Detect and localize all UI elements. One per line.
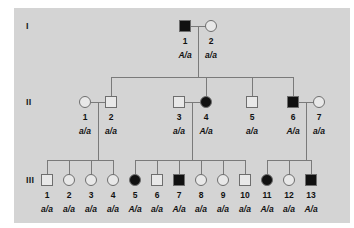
individual-III-11-circle[interactable] bbox=[262, 175, 273, 186]
individual-III-1-genotype-label: a/a bbox=[41, 204, 53, 214]
individual-III-3-circle[interactable] bbox=[86, 175, 97, 186]
individual-III-10-square[interactable] bbox=[240, 175, 251, 186]
individual-III-1-id-label: 1 bbox=[45, 190, 50, 200]
individual-III-11-genotype-label: A/a bbox=[260, 204, 273, 214]
individual-II-5-id-label: 5 bbox=[250, 112, 255, 122]
individual-III-12-id-label: 12 bbox=[284, 190, 293, 200]
individual-III-6-id-label: 6 bbox=[155, 190, 160, 200]
individual-III-9-circle[interactable] bbox=[218, 175, 229, 186]
individual-I-1-square[interactable] bbox=[180, 21, 191, 32]
individual-I-1-genotype-label: A/a bbox=[178, 50, 191, 60]
individual-III-6-square[interactable] bbox=[152, 175, 163, 186]
individual-III-2-circle[interactable] bbox=[64, 175, 75, 186]
individual-III-8-genotype-label: a/a bbox=[195, 204, 207, 214]
individual-III-10-id-label: 10 bbox=[240, 190, 249, 200]
individual-II-6-genotype-label: A/a bbox=[286, 126, 299, 136]
individual-I-2-id-label: 2 bbox=[209, 36, 214, 46]
pedigree-figure: 1A/a2a/a1a/a2a/a3a/a4A/a5a/a6A/a7a/a1a/a… bbox=[0, 0, 354, 228]
individual-II-4-id-label: 4 bbox=[204, 112, 209, 122]
individual-II-1-genotype-label: a/a bbox=[79, 126, 91, 136]
generation-label-III: III bbox=[26, 175, 34, 185]
individual-I-2-genotype-label: a/a bbox=[205, 50, 217, 60]
individual-III-9-genotype-label: a/a bbox=[217, 204, 229, 214]
individual-II-3-genotype-label: a/a bbox=[173, 126, 185, 136]
individual-II-4-circle[interactable] bbox=[201, 97, 212, 108]
individual-II-2-id-label: 2 bbox=[109, 112, 114, 122]
individual-III-5-genotype-label: A/a bbox=[128, 204, 141, 214]
individual-III-6-genotype-label: a/a bbox=[151, 204, 163, 214]
individual-II-3-square[interactable] bbox=[174, 97, 185, 108]
individual-III-11-id-label: 11 bbox=[263, 190, 272, 200]
individual-I-2-circle[interactable] bbox=[206, 21, 217, 32]
individual-III-7-id-label: 7 bbox=[177, 190, 182, 200]
individual-III-7-genotype-label: A/a bbox=[172, 204, 185, 214]
individual-III-5-id-label: 5 bbox=[133, 190, 138, 200]
individual-II-2-square[interactable] bbox=[106, 97, 117, 108]
individual-II-2-genotype-label: a/a bbox=[105, 126, 117, 136]
individual-III-3-genotype-label: a/a bbox=[85, 204, 97, 214]
individual-II-5-square[interactable] bbox=[247, 97, 258, 108]
individual-II-7-id-label: 7 bbox=[317, 112, 322, 122]
individual-III-9-id-label: 9 bbox=[221, 190, 226, 200]
individual-III-12-circle[interactable] bbox=[284, 175, 295, 186]
individual-III-8-circle[interactable] bbox=[196, 175, 207, 186]
individual-III-5-circle[interactable] bbox=[130, 175, 141, 186]
individual-III-1-square[interactable] bbox=[42, 175, 53, 186]
individual-II-4-genotype-label: A/a bbox=[199, 126, 212, 136]
individual-III-13-genotype-label: A/a bbox=[304, 204, 317, 214]
individual-II-1-id-label: 1 bbox=[83, 112, 88, 122]
generation-label-I: I bbox=[26, 21, 29, 31]
individual-III-4-circle[interactable] bbox=[108, 175, 119, 186]
individual-II-1-circle[interactable] bbox=[80, 97, 91, 108]
individual-III-8-id-label: 8 bbox=[199, 190, 204, 200]
individual-II-7-circle[interactable] bbox=[314, 97, 325, 108]
individual-III-4-genotype-label: a/a bbox=[107, 204, 119, 214]
individual-I-1-id-label: 1 bbox=[183, 36, 188, 46]
individual-III-4-id-label: 4 bbox=[111, 190, 116, 200]
individual-II-3-id-label: 3 bbox=[177, 112, 182, 122]
generation-label-II: II bbox=[26, 97, 32, 107]
individual-III-13-square[interactable] bbox=[306, 175, 317, 186]
individual-II-6-id-label: 6 bbox=[291, 112, 296, 122]
individual-II-6-square[interactable] bbox=[288, 97, 299, 108]
individual-III-7-square[interactable] bbox=[174, 175, 185, 186]
individual-III-12-genotype-label: a/a bbox=[283, 204, 295, 214]
individual-III-2-genotype-label: a/a bbox=[63, 204, 75, 214]
individual-III-2-id-label: 2 bbox=[67, 190, 72, 200]
individual-II-7-genotype-label: a/a bbox=[313, 126, 325, 136]
individual-III-3-id-label: 3 bbox=[89, 190, 94, 200]
individual-II-5-genotype-label: a/a bbox=[246, 126, 258, 136]
individual-III-10-genotype-label: a/a bbox=[239, 204, 251, 214]
individual-III-13-id-label: 13 bbox=[306, 190, 315, 200]
